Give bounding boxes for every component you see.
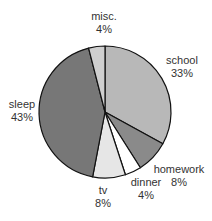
label-sleep: sleep 43% — [4, 98, 40, 124]
label-misc: misc. 4% — [84, 10, 124, 36]
label-school-name: school — [160, 54, 204, 67]
label-dinner: dinner 4% — [126, 176, 166, 202]
label-tv: tv 8% — [88, 184, 118, 210]
label-tv-pct: 8% — [88, 197, 118, 210]
label-misc-pct: 4% — [84, 23, 124, 36]
label-misc-name: misc. — [84, 10, 124, 23]
label-school-pct: 33% — [160, 67, 204, 80]
label-dinner-pct: 4% — [126, 189, 166, 202]
label-sleep-pct: 43% — [4, 111, 40, 124]
label-homework-name: homework — [150, 163, 208, 176]
label-sleep-name: sleep — [4, 98, 40, 111]
label-school: school 33% — [160, 54, 204, 80]
label-tv-name: tv — [88, 184, 118, 197]
label-dinner-name: dinner — [126, 176, 166, 189]
